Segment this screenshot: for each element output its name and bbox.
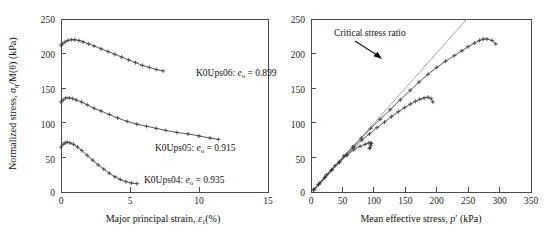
left-ytick-0: 0	[50, 188, 55, 198]
right-xtick-200: 200	[430, 196, 445, 206]
data-point-marker	[65, 140, 69, 144]
data-point-marker	[164, 128, 168, 132]
left-data-series	[59, 38, 221, 186]
left-xtick-15: 15	[263, 196, 273, 206]
data-point-marker	[161, 69, 165, 73]
right-xtick-150: 150	[398, 196, 413, 206]
left-xtick-5: 5	[128, 196, 133, 206]
data-point-marker	[124, 180, 128, 184]
left-plot-svg: Normalized stress, σq/M(θ) (kPa) 250 200…	[0, 0, 280, 236]
right-ytick-150: 150	[291, 85, 306, 95]
data-point-marker	[481, 37, 485, 41]
right-ytick-50: 50	[296, 155, 306, 165]
data-point-marker	[369, 141, 373, 145]
right-xtick-300: 300	[492, 196, 507, 206]
data-point-marker	[216, 137, 220, 141]
series-markers-K0Ups04	[59, 140, 139, 186]
right-ytick-250: 250	[291, 15, 306, 25]
series-markers-K0Ups06	[59, 38, 165, 73]
right-y-ticks	[311, 19, 316, 192]
left-x-ticks	[61, 187, 268, 192]
right-ytick-200: 200	[291, 50, 306, 60]
data-point-marker	[99, 109, 103, 113]
series-path-K0Ups04	[61, 142, 137, 184]
data-point-marker	[107, 112, 111, 116]
data-point-marker	[113, 175, 117, 179]
series-path-K0Ups06	[61, 40, 163, 71]
data-point-marker	[144, 124, 148, 128]
left-ytick-200: 200	[41, 50, 56, 60]
data-point-marker	[431, 100, 435, 104]
data-point-marker	[77, 38, 81, 42]
data-point-marker	[472, 41, 476, 45]
data-point-marker	[140, 63, 144, 67]
data-point-marker	[422, 96, 426, 100]
data-point-marker	[135, 122, 139, 126]
data-point-marker	[92, 44, 96, 48]
data-point-marker	[129, 181, 133, 185]
data-point-marker	[125, 119, 129, 123]
right-xtick-100: 100	[367, 196, 382, 206]
series-label-ups04: K0Ups04: eo = 0.935	[144, 175, 225, 186]
data-point-marker	[85, 103, 89, 107]
figure-container: Normalized stress, σq/M(θ) (kPa) 250 200…	[0, 0, 559, 236]
right-data-series	[311, 19, 497, 192]
data-point-marker	[99, 47, 103, 51]
data-point-marker	[81, 40, 85, 44]
right-xtick-50: 50	[338, 196, 348, 206]
right-plot-frame	[311, 19, 531, 192]
data-point-marker	[368, 146, 372, 150]
right-xtick-0: 0	[309, 196, 314, 206]
data-point-marker	[106, 49, 110, 53]
data-point-marker	[115, 116, 119, 120]
series-path-K0Ups05	[61, 98, 218, 140]
chart-panel-right: 250 200 150 100 50 0	[280, 0, 559, 236]
series-markers-K0Ups06	[312, 37, 498, 191]
left-xtick-10: 10	[194, 196, 204, 206]
left-y-axis-title: Normalized stress, σq/M(θ) (kPa)	[7, 37, 19, 170]
data-point-marker	[135, 182, 139, 186]
right-ytick-100: 100	[291, 120, 306, 130]
data-point-marker	[363, 142, 367, 146]
critical-stress-ratio-arrow	[355, 41, 382, 59]
series-markers-K0Ups04	[311, 141, 373, 192]
left-ytick-100: 100	[41, 120, 56, 130]
data-point-marker	[87, 42, 91, 46]
data-point-marker	[175, 130, 179, 134]
left-xtick-0: 0	[59, 196, 64, 206]
data-point-marker	[358, 144, 362, 148]
left-ytick-50: 50	[46, 155, 56, 165]
left-ytick-250: 250	[41, 15, 56, 25]
data-point-marker	[154, 126, 158, 130]
data-point-marker	[67, 96, 71, 100]
left-ytick-150: 150	[41, 85, 56, 95]
data-point-marker	[452, 54, 456, 58]
data-point-marker	[477, 38, 481, 42]
critical-stress-ratio-label: Critical stress ratio	[334, 28, 406, 38]
right-xtick-250: 250	[461, 196, 476, 206]
left-x-axis-title: Major principal strain, ε1(%)	[106, 213, 221, 225]
data-point-marker	[413, 99, 417, 103]
right-xtick-350: 350	[524, 196, 539, 206]
data-point-marker	[186, 132, 190, 136]
series-path-K0Ups06	[314, 39, 496, 189]
data-point-marker	[208, 136, 212, 140]
data-point-marker	[418, 97, 422, 101]
data-point-marker	[408, 102, 412, 106]
right-plot-svg: 250 200 150 100 50 0	[280, 0, 559, 236]
data-point-marker	[80, 100, 84, 104]
data-point-marker	[154, 67, 158, 71]
data-point-marker	[133, 61, 137, 65]
right-x-axis-title: Mean effective stress, p′ (kPa)	[360, 213, 481, 225]
right-ytick-0: 0	[300, 188, 305, 198]
data-point-marker	[485, 37, 489, 41]
data-point-marker	[197, 134, 201, 138]
series-label-ups05: K0Ups05: eo = 0.915	[155, 143, 236, 154]
data-point-marker	[92, 106, 96, 110]
data-point-marker	[127, 58, 131, 62]
series-path-K0Ups04	[314, 143, 372, 190]
right-x-ticks	[311, 187, 531, 192]
chart-panel-left: Normalized stress, σq/M(θ) (kPa) 250 200…	[0, 0, 280, 236]
data-point-marker	[118, 177, 122, 181]
data-point-marker	[147, 65, 151, 69]
